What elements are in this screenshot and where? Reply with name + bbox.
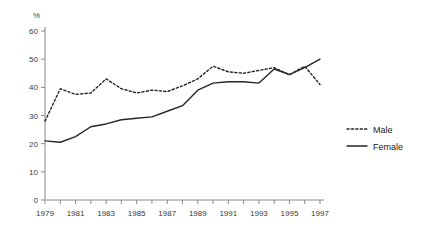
legend-label-female: Female [373,142,403,152]
chart-canvas: 0102030405060 19791981198319851987198919… [0,0,423,244]
x-axis-tick-label: 1983 [97,209,115,218]
y-axis-tick-label: 50 [29,55,38,64]
y-axis-tick-label: 10 [29,168,38,177]
x-axis-tick-label: 1997 [311,209,329,218]
line-chart: 0102030405060 19791981198319851987198919… [0,0,423,244]
x-axis-tick-label: 1979 [36,209,54,218]
chart-background [0,0,423,244]
legend-label-male: Male [373,125,393,135]
y-axis-unit-label: % [33,11,40,20]
x-axis-tick-label: 1993 [250,209,268,218]
x-axis-tick-label: 1981 [67,209,85,218]
x-axis-tick-label: 1985 [128,209,146,218]
x-axis-tick-label: 1987 [158,209,176,218]
y-axis-tick-label: 0 [34,196,39,205]
x-axis-tick-label: 1991 [219,209,237,218]
y-axis-tick-label: 60 [29,27,38,36]
x-axis-tick-label: 1989 [189,209,207,218]
x-axis-tick-label: 1995 [281,209,299,218]
y-axis-tick-label: 20 [29,140,38,149]
y-axis-tick-label: 30 [29,112,38,121]
y-axis-tick-label: 40 [29,83,38,92]
